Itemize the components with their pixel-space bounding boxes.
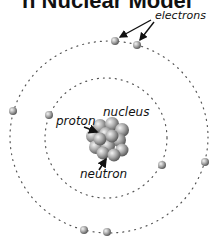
electrons-label: electrons [155,10,206,22]
neutron-label: neutron [80,168,127,180]
electron [103,228,111,236]
electron [133,41,141,49]
electron [80,226,88,234]
nucleus-label: nucleus [103,106,149,118]
electron [201,158,209,166]
electrons-arrow-1 [120,20,151,37]
electron [111,37,119,45]
electron [45,111,53,119]
electron [9,107,17,115]
electron [158,161,166,169]
proton-label: proton [56,115,96,127]
